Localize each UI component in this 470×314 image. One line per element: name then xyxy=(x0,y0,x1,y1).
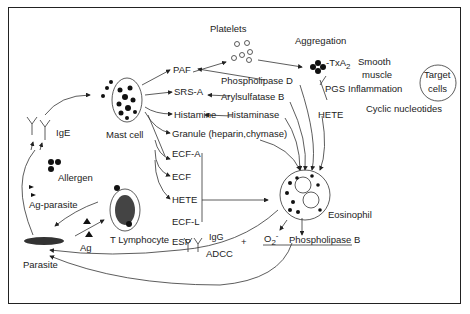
smooth-muscle-label-2: muscle xyxy=(362,70,392,80)
ag-label: Ag xyxy=(80,243,92,253)
mast-cell-label: Mast cell xyxy=(106,130,143,140)
enzyme-phospholipase-d: Phospholipase D xyxy=(221,76,293,86)
ige-label: IgE xyxy=(56,128,70,138)
allergen-label: Allergen xyxy=(58,173,93,183)
adcc-label: ADCC xyxy=(206,249,233,259)
enzyme-histaminase: Histaminase xyxy=(227,110,279,120)
target-cells-label-2: cells xyxy=(428,84,447,94)
smooth-muscle-label-1: Smooth xyxy=(358,57,391,67)
hete-top-label: HETE xyxy=(318,110,343,120)
inflammation-label: Inflammation xyxy=(348,84,402,94)
diagram-graphics xyxy=(0,0,470,314)
pgs-label: PGS xyxy=(325,84,345,94)
t-lymphocyte-label: T Lymphocyte xyxy=(110,235,169,245)
mediator-srs-a: SRS-A xyxy=(174,87,203,97)
phospholipase-b-label: Phospholipase B xyxy=(289,235,360,245)
enzyme-arylsulfatase-b: Arylsulfatase B xyxy=(221,92,284,102)
plus-sign: + xyxy=(241,237,247,247)
mediator-hete: HETE xyxy=(172,195,197,205)
cyclic-nucleotides-label: Cyclic nucleotides xyxy=(366,104,442,114)
platelets-label: Platelets xyxy=(210,24,246,34)
target-cells-label-1: Target xyxy=(424,70,450,80)
igg-label: IgG xyxy=(209,233,224,242)
mediator-ecf-l: ECF-L xyxy=(172,217,199,227)
superoxide-label: O2- xyxy=(264,232,278,247)
mediator-esp: ESP xyxy=(172,237,191,247)
mediator-ecf: ECF xyxy=(172,172,191,182)
txa2-label: -TxA2 xyxy=(326,58,350,71)
aggregation-label: Aggregation xyxy=(295,36,346,46)
eosinophil-label: Eosinophil xyxy=(328,210,372,220)
mediator-paf: PAF xyxy=(173,65,191,75)
mediator-histamine: Histamine xyxy=(174,110,216,120)
mediator-ecf-a: ECF-A xyxy=(172,149,201,159)
mediator-granule: Granule (heparin,chymase) xyxy=(172,129,287,139)
parasite-label: Parasite xyxy=(23,260,58,270)
ag-parasite-label: Ag-parasite xyxy=(29,200,78,210)
